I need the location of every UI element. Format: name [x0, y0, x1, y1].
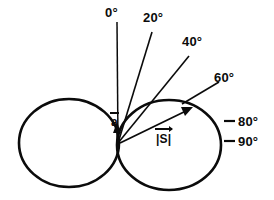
- angle-leader-60: [182, 82, 219, 104]
- vector-s-overline-group: |S|: [156, 133, 171, 145]
- overbar-icon: [110, 112, 119, 114]
- vector-a-overline-group: a: [111, 116, 118, 128]
- angle-line-20: [118, 32, 152, 143]
- vector-s-text: |S|: [156, 132, 171, 146]
- angle-label-60: 60°: [214, 71, 234, 84]
- vector-s-label: |S|: [156, 133, 171, 145]
- vector-s-arrowhead: [181, 107, 193, 116]
- angle-label-80: 80°: [238, 115, 258, 128]
- angle-label-90: 90°: [238, 135, 258, 148]
- angle-label-40: 40°: [182, 35, 202, 48]
- radiation-pattern-figure: [0, 0, 274, 200]
- vector-a-text: a: [111, 115, 118, 129]
- angle-label-0: 0°: [105, 6, 118, 19]
- vector-a-label: a: [111, 116, 118, 128]
- angle-label-20: 20°: [143, 11, 163, 24]
- overarrow-icon: [155, 128, 172, 130]
- left-lobe: [19, 99, 119, 187]
